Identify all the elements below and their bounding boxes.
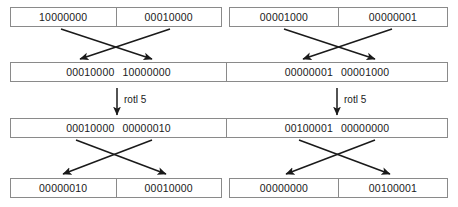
diagram-canvas: 10000000 00010000 00001000 00000001 0001… <box>0 0 458 207</box>
row1-left-cell-1: 00010000 <box>116 8 222 26</box>
rotl-right-label: rotl 5 <box>344 94 366 105</box>
row4-left-cell-0: 00000010 <box>11 179 116 197</box>
row4-left-box: 00000010 00010000 <box>10 178 222 198</box>
row2-right-half: 00000001 00001000 <box>226 63 447 81</box>
row1-right-cell-1: 00000001 <box>338 8 447 26</box>
swap-arrows-right-bottom <box>286 140 390 174</box>
row3-box: 00010000 00000010 00100001 00000000 <box>10 118 448 138</box>
row4-right-cell-0: 00000000 <box>230 179 338 197</box>
arrow-layer <box>0 0 458 207</box>
row3-right-half: 00100001 00000000 <box>226 119 447 137</box>
row3-left-word-1: 00000010 <box>123 122 171 134</box>
swap-arrows-left-bottom <box>63 140 166 174</box>
row3-left-word-0: 00010000 <box>66 122 114 134</box>
swap-arrows-left-top <box>61 29 170 59</box>
rotl-left-label: rotl 5 <box>124 94 146 105</box>
row2-right-word-1: 00001000 <box>341 66 389 78</box>
row2-box: 00010000 10000000 00000001 00001000 <box>10 62 448 82</box>
row1-left-cell-0: 10000000 <box>11 8 116 26</box>
row4-right-cell-1: 00100001 <box>338 179 447 197</box>
swap-arrows-right-top <box>284 29 392 59</box>
row3-right-word-0: 00100001 <box>285 122 333 134</box>
row2-left-word-1: 10000000 <box>123 66 171 78</box>
row3-left-half: 00010000 00000010 <box>11 119 226 137</box>
row1-left-box: 10000000 00010000 <box>10 7 222 27</box>
row2-left-half: 00010000 10000000 <box>11 63 226 81</box>
row4-left-cell-1: 00010000 <box>116 179 222 197</box>
row3-right-word-1: 00000000 <box>341 122 389 134</box>
row4-right-box: 00000000 00100001 <box>229 178 448 198</box>
row1-right-box: 00001000 00000001 <box>229 7 448 27</box>
row2-left-word-0: 00010000 <box>66 66 114 78</box>
row2-right-word-0: 00000001 <box>285 66 333 78</box>
row1-right-cell-0: 00001000 <box>230 8 338 26</box>
